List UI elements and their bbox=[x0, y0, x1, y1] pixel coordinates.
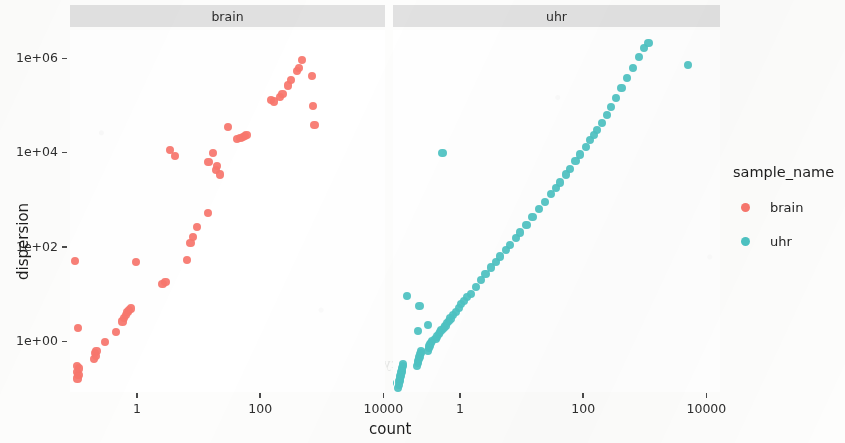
data-point bbox=[415, 353, 423, 361]
data-point bbox=[270, 97, 278, 105]
data-point bbox=[427, 339, 435, 347]
legend-item-uhr[interactable]: uhr bbox=[741, 234, 792, 249]
data-point bbox=[431, 335, 439, 343]
data-point bbox=[183, 256, 191, 264]
data-point bbox=[535, 205, 543, 213]
data-point bbox=[460, 297, 468, 305]
data-point bbox=[516, 228, 524, 236]
y-axis-tick-label: 1e+04 bbox=[0, 144, 58, 159]
data-point bbox=[204, 158, 212, 166]
data-point bbox=[506, 241, 514, 249]
data-point bbox=[417, 349, 425, 357]
data-point bbox=[276, 93, 284, 101]
data-point bbox=[593, 126, 601, 134]
data-point bbox=[112, 328, 120, 336]
data-point bbox=[437, 326, 445, 334]
data-point bbox=[571, 157, 579, 165]
data-point bbox=[446, 314, 454, 322]
data-point bbox=[293, 67, 301, 75]
data-point bbox=[224, 123, 232, 131]
legend-label-uhr: uhr bbox=[770, 234, 792, 249]
legend-item-brain[interactable]: brain bbox=[741, 200, 803, 215]
data-point bbox=[161, 278, 169, 286]
x-axis-tick-label: 1 bbox=[97, 401, 177, 416]
data-point bbox=[396, 372, 404, 380]
data-point bbox=[284, 81, 292, 89]
x-axis-tick-mark bbox=[383, 393, 385, 398]
y-axis-tick-label: 1e+06 bbox=[0, 50, 58, 65]
data-point bbox=[644, 39, 652, 47]
data-point bbox=[399, 360, 407, 368]
data-point bbox=[189, 233, 197, 241]
data-point bbox=[629, 64, 637, 72]
data-point bbox=[541, 198, 549, 206]
data-point bbox=[415, 355, 423, 363]
data-point bbox=[425, 342, 433, 350]
data-point bbox=[398, 366, 406, 374]
y-axis-tick-label: 1e+00 bbox=[0, 333, 58, 348]
data-point bbox=[74, 371, 82, 379]
data-point bbox=[204, 209, 212, 217]
data-point bbox=[477, 276, 485, 284]
data-point bbox=[403, 292, 411, 300]
data-point bbox=[425, 344, 433, 352]
data-point bbox=[492, 258, 500, 266]
legend: sample_name brainuhr bbox=[733, 164, 834, 180]
data-point bbox=[417, 347, 425, 355]
data-point bbox=[295, 64, 303, 72]
data-point bbox=[463, 293, 471, 301]
data-point bbox=[101, 338, 109, 346]
data-point bbox=[413, 362, 421, 370]
x-axis-tick-label: 1 bbox=[420, 401, 500, 416]
x-axis-tick-mark bbox=[136, 393, 138, 398]
data-point bbox=[233, 135, 241, 143]
data-point bbox=[73, 368, 81, 376]
data-point bbox=[440, 324, 448, 332]
data-point bbox=[92, 347, 100, 355]
data-point bbox=[445, 317, 453, 325]
data-point bbox=[122, 311, 130, 319]
data-point bbox=[640, 44, 648, 52]
y-axis-title: dispersion bbox=[14, 203, 32, 280]
x-axis-tick-label: 100 bbox=[220, 401, 300, 416]
data-point bbox=[598, 119, 606, 127]
data-point bbox=[416, 350, 424, 358]
data-point bbox=[424, 347, 432, 355]
data-point bbox=[236, 134, 244, 142]
legend-key-uhr-icon bbox=[741, 237, 750, 246]
data-point bbox=[125, 306, 133, 314]
facet-strip-brain-label: brain bbox=[211, 9, 243, 24]
data-point bbox=[90, 355, 98, 363]
data-point bbox=[684, 61, 692, 69]
y-axis-tick-mark bbox=[62, 58, 67, 60]
data-point bbox=[166, 146, 174, 154]
data-point bbox=[123, 308, 131, 316]
data-point bbox=[91, 349, 99, 357]
data-point bbox=[397, 368, 405, 376]
data-point bbox=[394, 384, 402, 392]
data-point bbox=[435, 330, 443, 338]
data-point bbox=[193, 223, 201, 231]
x-axis-tick-label: 100 bbox=[543, 401, 623, 416]
data-point bbox=[582, 143, 590, 151]
data-point bbox=[502, 246, 510, 254]
chart-root: Represents the read countsents the read … bbox=[0, 0, 845, 443]
data-point bbox=[298, 56, 306, 64]
data-point bbox=[415, 302, 423, 310]
y-axis-tick-mark bbox=[62, 152, 67, 154]
data-point bbox=[590, 131, 598, 139]
data-point bbox=[213, 162, 221, 170]
x-axis-tick-label: 10000 bbox=[666, 401, 746, 416]
data-point bbox=[395, 380, 403, 388]
data-point bbox=[522, 221, 530, 229]
data-point bbox=[395, 377, 403, 385]
data-point bbox=[512, 234, 520, 242]
data-point bbox=[414, 359, 422, 367]
data-point bbox=[452, 308, 460, 316]
data-point bbox=[562, 170, 570, 178]
x-axis-tick-mark bbox=[259, 393, 261, 398]
x-axis-tick-mark bbox=[706, 393, 708, 398]
legend-title: sample_name bbox=[733, 164, 834, 180]
data-point bbox=[92, 352, 100, 360]
data-point bbox=[74, 324, 82, 332]
